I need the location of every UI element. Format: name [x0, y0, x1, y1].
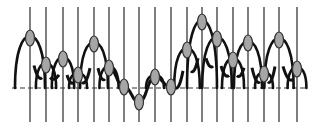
node-ellipse — [260, 66, 269, 82]
envelope-shoulder — [191, 58, 198, 71]
node-ellipse — [213, 31, 222, 47]
node-ellipse — [26, 30, 35, 46]
node-ellipse — [120, 79, 129, 95]
node-ellipse — [151, 69, 160, 85]
envelope-shoulder — [206, 58, 213, 67]
node-ellipse — [229, 52, 238, 68]
node-ellipse — [293, 61, 302, 77]
node-ellipse — [275, 32, 284, 48]
node-ellipse — [198, 14, 207, 30]
node-ellipse — [244, 35, 253, 51]
node-ellipse — [59, 51, 68, 67]
node-ellipse — [183, 42, 192, 58]
node-ellipse — [105, 60, 114, 76]
envelope-shoulder — [175, 71, 183, 88]
node-ellipse — [42, 57, 51, 73]
node-ellipse — [90, 36, 99, 52]
node-ellipse — [74, 67, 83, 83]
arch-diagram — [0, 0, 321, 130]
node-ellipse — [135, 94, 144, 110]
node-ellipse — [167, 79, 176, 95]
